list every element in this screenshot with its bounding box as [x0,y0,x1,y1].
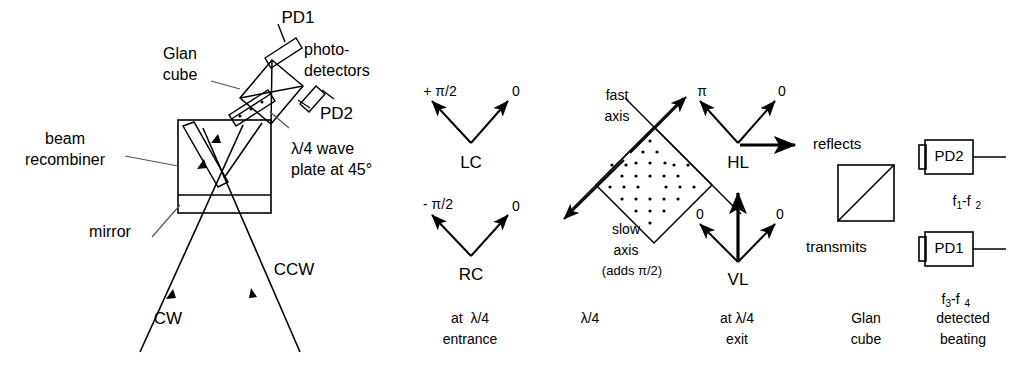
caption-detection-line2: beating [940,332,986,348]
label-beat-note-pd2: f1-f2 [937,178,981,227]
beat1-sub-b: 4 [965,298,971,309]
waveplate-diamond-dots [608,139,695,224]
label-vl-right-phase: 0 [776,207,784,223]
leader-mirror [152,205,180,237]
label-rc-left-phase: - π/2 [423,197,453,213]
vl-arrow-right [738,224,775,262]
hl-arrow-left [700,101,738,143]
leader-beam-recombiner [125,156,178,166]
label-slow-axis-line1: slow [612,222,640,238]
glan-cube-diagonal [838,165,894,221]
label-waveplate-line1: λ/4 wave [291,140,354,158]
fast-axis-arrow [630,97,686,153]
label-fast-axis-line2: axis [605,109,630,125]
internal-splitter-plate [183,122,228,187]
caption-glan-line1: Glan [851,311,881,327]
leader-glan-cube [211,81,240,89]
label-pd2-name: PD2 [934,148,963,165]
label-mirror: mirror [89,223,131,241]
label-ccw: CCW [274,260,315,279]
beam-to-glan [224,123,262,178]
label-beam-recombiner-line2: recombiner [25,151,105,169]
beam-direction-markers [166,134,257,299]
label-slow-axis-line3: (adds π/2) [602,264,662,279]
label-glan-cube-line2: cube [163,66,198,84]
rc-arrow-left [432,215,471,256]
label-slow-axis-line2: axis [614,243,639,259]
caption-entrance-line2: entrance [443,332,497,348]
label-rc-right-phase: 0 [512,199,520,215]
label-vl-left-phase: 0 [696,207,704,223]
label-lc-state: LC [460,153,482,172]
label-hl-state: HL [727,153,749,172]
state-rc-arrows [432,215,508,256]
figure-canvas: PD1 photo- detectors Glan cube PD2 beam … [0,0,1025,368]
label-pd2: PD2 [320,104,353,123]
state-lc-arrows [432,101,508,143]
label-waveplate-line2: plate at 45° [291,161,372,179]
state-vl-arrows [700,193,775,262]
rc-arrow-right [471,215,508,256]
beat1-minus-f: -f [951,291,960,307]
caption-detection-line1: detected [936,311,990,327]
label-photodetectors-line1: photo- [304,41,349,59]
state-hl-arrows [700,101,795,145]
lc-arrow-left [432,101,471,143]
beat2-minus-f: -f [962,193,971,209]
label-lc-right-phase: 0 [512,84,520,100]
waveplate-diamond [567,98,741,243]
label-pd1-name: PD1 [934,240,963,257]
label-fast-axis-line1: fast [606,88,629,104]
label-glan-cube-line1: Glan [163,45,197,63]
label-pd1: PD1 [281,8,314,27]
caption-entrance-line1: at λ/4 [451,311,489,327]
caption-exit-line1: at λ/4 [720,311,754,327]
label-cw: CW [154,309,182,328]
caption-exit-line2: exit [726,332,748,348]
beam-ccw [203,128,300,352]
glan-cube-element [240,60,303,124]
slow-axis-arrow [564,160,624,219]
glan-cube-square [838,165,894,221]
label-beam-recombiner-line1: beam [45,130,85,148]
beat2-sub-b: 2 [976,200,982,211]
label-hl-left-phase: π [697,84,707,100]
label-photodetectors-line2: detectors [304,62,370,80]
diamond-split-b [625,98,741,214]
lc-arrow-right [471,101,508,143]
label-rc-state: RC [459,265,484,284]
caption-waveplate: λ/4 [581,311,600,327]
hl-arrow-right [738,101,775,143]
caption-glan-line2: cube [851,332,881,348]
label-reflects: reflects [813,136,861,153]
label-transmits: transmits [806,239,867,256]
label-lc-left-phase: + π/2 [423,84,456,100]
label-vl-state: VL [728,270,749,289]
label-hl-right-phase: 0 [778,84,786,100]
vl-arrow-left [700,224,738,262]
